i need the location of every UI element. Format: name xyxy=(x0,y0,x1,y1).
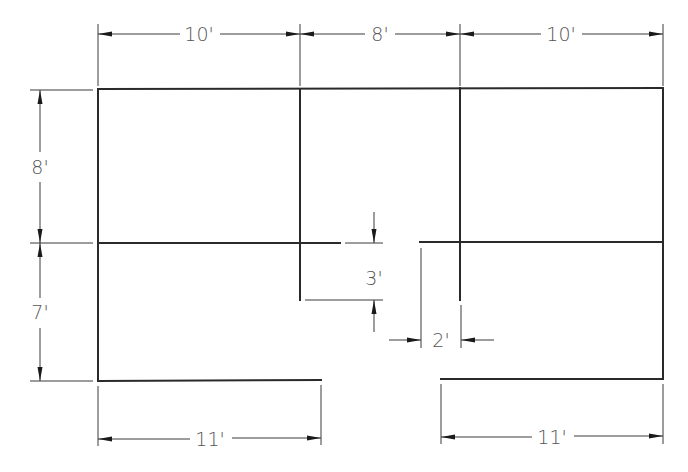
dimension-label: 3' xyxy=(365,267,382,289)
dimension-left-1: 8' xyxy=(31,90,48,243)
arrow-left-icon xyxy=(461,338,475,343)
dimension-label: 8' xyxy=(31,156,48,178)
dimension-left-2: 7' xyxy=(31,243,48,381)
arrow-left-icon xyxy=(300,32,314,37)
arrow-down-icon xyxy=(38,229,43,243)
floor-plan-drawing: 10' 8' 10' 8' 7' 11' xyxy=(0,0,688,472)
dimension-label: 2' xyxy=(432,329,449,351)
dimension-top-3: 10' xyxy=(460,23,663,45)
dimension-bottom-2: 11' xyxy=(441,426,663,448)
arrow-left-icon xyxy=(460,32,474,37)
arrow-right-icon xyxy=(649,434,663,439)
arrow-up-icon xyxy=(372,300,377,314)
dimension-label: 11' xyxy=(195,428,224,450)
dimension-label: 7' xyxy=(31,301,48,323)
arrow-up-icon xyxy=(38,90,43,104)
wall-top xyxy=(98,88,663,89)
dimension-label: 10' xyxy=(546,23,575,45)
arrow-down-icon xyxy=(372,229,377,243)
dimension-label: 8' xyxy=(371,23,388,45)
arrow-right-icon xyxy=(286,32,300,37)
dimension-top-1: 10' xyxy=(98,23,300,45)
arrow-left-icon xyxy=(98,437,112,442)
dimension-inner-3ft: 3' xyxy=(365,212,382,332)
dimension-label: 11' xyxy=(537,426,566,448)
arrow-right-icon xyxy=(307,436,321,441)
walls xyxy=(98,88,663,381)
wall-bottom-left xyxy=(98,380,321,381)
arrow-right-icon xyxy=(407,338,421,343)
arrow-right-icon xyxy=(446,32,460,37)
arrow-down-icon xyxy=(38,367,43,381)
dimension-inner-2ft: 2' xyxy=(389,329,494,351)
arrow-left-icon xyxy=(441,435,455,440)
arrow-right-icon xyxy=(649,32,663,37)
arrow-left-icon xyxy=(98,32,112,37)
dimension-label: 10' xyxy=(184,23,213,45)
arrow-up-icon xyxy=(38,243,43,257)
dimension-bottom-1: 11' xyxy=(98,428,321,450)
dimension-top-2: 8' xyxy=(300,23,460,45)
